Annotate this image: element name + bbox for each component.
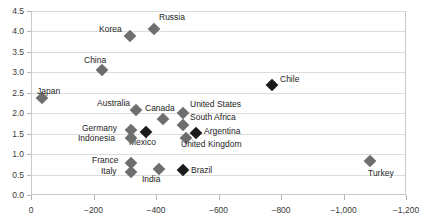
- y-axis-tick-label: 4.0: [0, 27, 24, 36]
- gridline: [32, 52, 405, 53]
- x-axis-tick-label: −200: [64, 206, 124, 215]
- data-point-label: Brazil: [191, 166, 212, 175]
- y-tick-mark: [27, 154, 31, 155]
- data-point-label: Japan: [37, 87, 60, 96]
- data-point-label: United States: [190, 100, 241, 109]
- data-point-label: China: [84, 56, 106, 65]
- x-tick-mark: [156, 195, 157, 200]
- y-axis-tick-label: 0.5: [0, 171, 24, 180]
- gridline: [32, 31, 405, 32]
- x-axis-tick-label: −800: [251, 206, 311, 215]
- x-axis-tick-label: −1,200: [376, 206, 424, 215]
- y-axis-tick-label: 0.0: [0, 191, 24, 200]
- y-tick-mark: [27, 175, 31, 176]
- y-tick-mark: [27, 113, 31, 114]
- x-tick-mark: [94, 195, 95, 200]
- x-axis-tick-label: −400: [126, 206, 186, 215]
- x-tick-mark: [31, 195, 32, 200]
- y-tick-mark: [27, 93, 31, 94]
- gridline: [32, 72, 405, 73]
- y-tick-mark: [27, 52, 31, 53]
- x-axis-tick-label: −600: [189, 206, 249, 215]
- y-axis-tick-label: 4.5: [0, 7, 24, 16]
- x-tick-mark: [281, 195, 282, 200]
- y-axis-tick-label: 2.0: [0, 109, 24, 118]
- data-point-label: Canada: [145, 104, 175, 113]
- y-tick-mark: [27, 11, 31, 12]
- y-axis-tick-label: 2.5: [0, 89, 24, 98]
- data-point-label: Germany: [82, 124, 117, 133]
- y-axis-tick-label: 1.0: [0, 150, 24, 159]
- y-tick-mark: [27, 72, 31, 73]
- x-tick-mark: [406, 195, 407, 200]
- data-point-label: Indonesia: [78, 134, 115, 143]
- gridline: [32, 175, 405, 176]
- data-point-label: Italy: [101, 167, 117, 176]
- data-point-label: India: [142, 175, 160, 184]
- data-point-label: Chile: [280, 75, 299, 84]
- x-tick-mark: [219, 195, 220, 200]
- x-axis-tick-label: 0: [1, 206, 61, 215]
- data-point-label: South Africa: [190, 113, 236, 122]
- y-axis-tick-label: 1.5: [0, 130, 24, 139]
- data-point-label: Russia: [159, 13, 185, 22]
- data-point-label: Turkey: [368, 169, 394, 178]
- gridline: [32, 93, 405, 94]
- y-axis-tick-label: 3.0: [0, 68, 24, 77]
- data-point-label: United Kingdom: [181, 140, 241, 149]
- scatter-chart: 0.00.51.01.52.02.53.03.54.04.50−200−400−…: [0, 0, 424, 223]
- data-point-label: France: [92, 156, 118, 165]
- gridline: [32, 11, 405, 12]
- y-axis-tick-label: 3.5: [0, 48, 24, 57]
- y-tick-mark: [27, 134, 31, 135]
- data-point-label: Korea: [99, 25, 122, 34]
- data-point-label: Argentina: [204, 127, 240, 136]
- gridline: [32, 154, 405, 155]
- x-axis-tick-label: −1,000: [314, 206, 374, 215]
- data-point-label: Australia: [97, 99, 130, 108]
- x-tick-mark: [344, 195, 345, 200]
- y-tick-mark: [27, 31, 31, 32]
